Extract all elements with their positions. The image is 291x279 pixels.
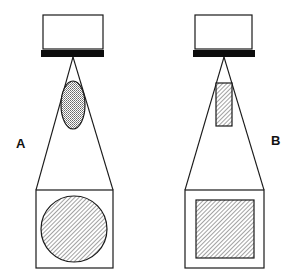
- projector-bar-b: [193, 50, 255, 57]
- projector-a: [41, 15, 104, 57]
- projector-bar-a: [41, 50, 104, 57]
- panel-b: [185, 15, 264, 268]
- projected-circle-a: [41, 196, 107, 262]
- projector-body-b: [195, 15, 252, 49]
- projected-square-b: [196, 200, 254, 258]
- panel-a: [36, 15, 113, 268]
- rectangle-object-b: [216, 83, 232, 126]
- projector-body-a: [43, 15, 103, 49]
- projection-diagram: [0, 0, 291, 279]
- ellipse-object-a: [61, 81, 85, 129]
- panel-label-b: B: [271, 134, 280, 147]
- panel-label-a: A: [16, 137, 25, 150]
- projector-b: [193, 15, 255, 57]
